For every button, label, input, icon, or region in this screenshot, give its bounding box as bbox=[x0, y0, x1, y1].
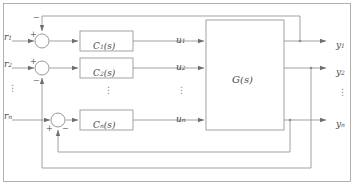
reference-label-n: rn bbox=[4, 104, 12, 123]
ellipsis-signal-column: ⋮ bbox=[177, 86, 186, 95]
reference-label-2: r2 bbox=[4, 52, 12, 71]
control-signal-label-n: un bbox=[176, 107, 186, 126]
sum-sign-plus-n: + bbox=[46, 124, 53, 133]
controller-label-1: C1(s) bbox=[93, 34, 115, 53]
summing-junction-1 bbox=[35, 34, 49, 48]
sum-sign-plus-2: + bbox=[30, 57, 37, 66]
output-label-1: y1 bbox=[336, 33, 345, 52]
sum-sign-minus-2: − bbox=[33, 76, 40, 85]
output-label-n: yn bbox=[336, 112, 345, 131]
control-signal-label-1: u1 bbox=[176, 28, 186, 47]
block-diagram-canvas: r1 r2 rn C1(s) C2(s) Cn(s) u1 u2 un G(s)… bbox=[0, 0, 354, 185]
output-label-2: y2 bbox=[336, 60, 345, 79]
plant-label: G(s) bbox=[232, 68, 253, 87]
feedback-tap-n bbox=[289, 119, 292, 122]
ellipsis-reference-column: ⋮ bbox=[8, 84, 17, 93]
sum-sign-minus-1: − bbox=[33, 13, 40, 22]
reference-label-1: r1 bbox=[4, 25, 12, 44]
control-signal-label-2: u2 bbox=[176, 55, 186, 74]
summing-junction-2 bbox=[35, 61, 49, 75]
sum-sign-plus-1: + bbox=[30, 30, 37, 39]
sum-sign-minus-n: − bbox=[62, 124, 69, 133]
feedback-tap-2 bbox=[310, 67, 313, 70]
ellipsis-controller-column: ⋮ bbox=[104, 86, 113, 95]
controller-label-2: C2(s) bbox=[93, 61, 115, 80]
feedback-tap-1 bbox=[299, 40, 302, 43]
controller-label-n: Cn(s) bbox=[93, 113, 115, 132]
ellipsis-output-column: ⋮ bbox=[338, 88, 347, 97]
